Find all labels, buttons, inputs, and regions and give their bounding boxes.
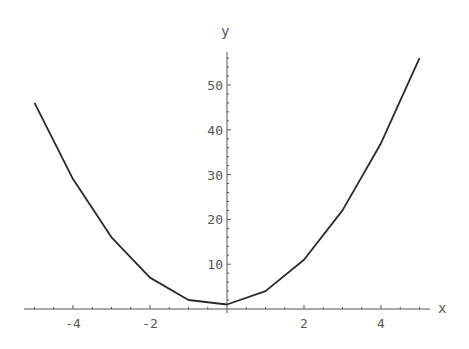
y-tick-label: 50 [207,78,223,93]
axes [24,52,430,313]
y-tick-label: 30 [207,168,223,183]
x-axis-label: x [438,300,446,316]
x-tick-label: 2 [300,316,308,331]
tick-labels: -4-2241020304050 [65,78,385,331]
y-tick-label: 10 [207,257,223,272]
y-axis-label: y [221,23,229,39]
x-tick-label: -4 [65,316,81,331]
line-chart: -4-2241020304050 x y [0,0,469,349]
y-tick-label: 40 [207,123,223,138]
x-tick-label: -2 [142,316,158,331]
x-tick-label: 4 [377,316,385,331]
y-tick-label: 20 [207,212,223,227]
